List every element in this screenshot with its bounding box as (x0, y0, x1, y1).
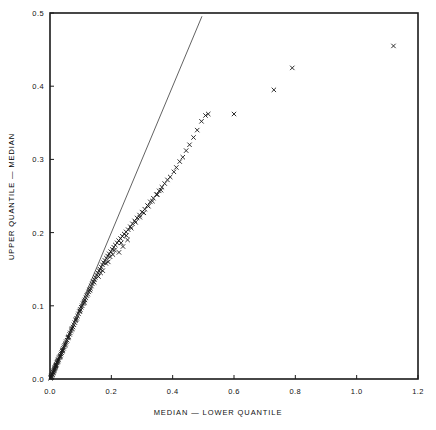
x-axis-title: MEDIAN — LOWER QUANTILE (0, 408, 436, 417)
data-point-marker (195, 128, 199, 132)
data-point-marker (115, 241, 119, 245)
plot-frame (50, 13, 418, 379)
data-point-marker (172, 170, 176, 174)
x-tick-label: 0.6 (228, 387, 240, 396)
plot-canvas (0, 0, 436, 430)
symmetry-plot-figure: UPPER QUANTILE — MEDIAN MEDIAN — LOWER Q… (0, 0, 436, 430)
data-point-marker (290, 66, 294, 70)
x-tick-label: 0.0 (44, 387, 56, 396)
data-point-marker (111, 252, 115, 256)
data-point-marker (124, 233, 128, 237)
data-point-marker (174, 165, 178, 169)
data-point-marker (391, 44, 395, 48)
x-tick-label: 1.2 (412, 387, 424, 396)
x-tick-label: 0.8 (290, 387, 302, 396)
x-tick-label: 0.2 (106, 387, 118, 396)
data-point-marker (143, 207, 147, 211)
data-points (48, 44, 395, 381)
data-point-marker (181, 155, 185, 159)
y-tick-label: 0.4 (14, 82, 44, 91)
data-point-marker (162, 181, 166, 185)
data-point-marker (232, 112, 236, 116)
data-point-marker (191, 135, 195, 139)
y-tick-label: 0.3 (14, 155, 44, 164)
x-tick-label: 0.4 (167, 387, 179, 396)
data-point-marker (187, 143, 191, 147)
data-point-marker (184, 148, 188, 152)
y-tick-label: 0.5 (14, 9, 44, 18)
data-point-marker (109, 249, 113, 253)
axis-ticks (50, 13, 418, 379)
y-axis-title-container: UPPER QUANTILE — MEDIAN (0, 0, 22, 392)
data-point-marker (199, 119, 203, 123)
data-point-marker (168, 175, 172, 179)
data-point-marker (272, 88, 276, 92)
y-axis-title: UPPER QUANTILE — MEDIAN (7, 133, 16, 260)
y-tick-label: 0.1 (14, 301, 44, 310)
data-point-marker (125, 238, 129, 242)
x-tick-label: 1.0 (351, 387, 363, 396)
data-point-marker (178, 159, 182, 163)
y-tick-label: 0.0 (14, 375, 44, 384)
y-tick-label: 0.2 (14, 228, 44, 237)
data-point-marker (117, 250, 121, 254)
